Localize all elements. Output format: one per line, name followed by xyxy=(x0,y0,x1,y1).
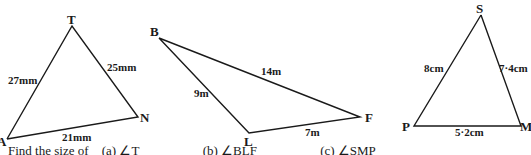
vertex-t-label: T xyxy=(67,12,76,27)
side-sm-label: 7·4cm xyxy=(499,62,528,74)
side-lf-label: 7m xyxy=(305,126,320,138)
triangle-blf-edges xyxy=(159,38,360,133)
question-part-b: (b) ∠BLF xyxy=(203,143,257,155)
triangle-atn: T A N 27mm 25mm 21mm xyxy=(0,12,150,149)
side-bf-label: 14m xyxy=(261,65,281,77)
side-an-label: 21mm xyxy=(62,131,91,143)
vertex-m-label: M xyxy=(520,119,531,134)
triangle-smp: S P M 8cm 7·4cm 5·2cm xyxy=(402,1,531,138)
triangles-diagram: T A N 27mm 25mm 21mm B L F 14m 9m 7m S P… xyxy=(0,0,531,155)
side-bl-label: 9m xyxy=(194,87,209,99)
side-tn-label: 25mm xyxy=(107,61,136,73)
question-prompt: Find the size of xyxy=(8,143,89,155)
vertex-b-label: B xyxy=(150,24,159,39)
triangle-blf: B L F 14m 9m 7m xyxy=(150,24,373,149)
vertex-p-label: P xyxy=(402,119,410,134)
side-pm-label: 5·2cm xyxy=(455,126,484,138)
side-ps-label: 8cm xyxy=(424,62,444,74)
vertex-f-label: F xyxy=(365,110,373,125)
vertex-n-label: N xyxy=(140,110,150,125)
side-at-label: 27mm xyxy=(8,74,37,86)
question-line: Find the size of (a) ∠T (b) ∠BLF (c) ∠SM… xyxy=(8,143,386,155)
question-part-a: (a) ∠T xyxy=(102,143,140,155)
vertex-s-label: S xyxy=(476,1,483,16)
vertex-a-label: A xyxy=(0,134,7,149)
question-part-c: (c) ∠SMP xyxy=(320,143,376,155)
